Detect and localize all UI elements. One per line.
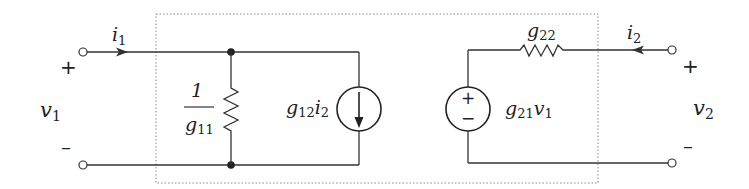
v1-label: v1 — [40, 98, 61, 124]
g21-v1-label: g21v1 — [505, 97, 553, 121]
i2-label: i2 — [627, 21, 641, 46]
dependent-current-source: g12i2 — [286, 52, 381, 165]
port2-plus-sign: + — [682, 54, 699, 78]
v2-label: v2 — [693, 96, 714, 122]
circuit-diagram: i1 + – v1 1 g11 g12i2 + − — [0, 0, 749, 189]
arrow-head-icon — [355, 117, 364, 128]
i1-label: i1 — [112, 23, 126, 48]
input-conductance-resistor: 1 g11 — [184, 52, 238, 165]
dependent-voltage-source: + − g21v1 — [446, 50, 553, 163]
g12-i2-label: g12i2 — [286, 96, 329, 120]
g11-numerator: 1 — [191, 79, 203, 101]
port2-minus-sign: – — [683, 134, 693, 158]
g11-denominator: g11 — [185, 113, 214, 137]
port-2: i2 + – v2 — [627, 21, 714, 167]
port1-plus-sign: + — [60, 55, 77, 79]
terminal-1-plus — [79, 48, 87, 56]
source-plus-sign: + — [461, 88, 475, 108]
resistor-zigzag-icon — [224, 52, 238, 165]
terminal-1-minus — [79, 161, 87, 169]
terminal-2-minus — [668, 159, 676, 167]
g22-label: g22 — [527, 19, 556, 43]
terminal-2-plus — [668, 46, 676, 54]
source-minus-sign: − — [461, 108, 475, 128]
port1-minus-sign: – — [61, 135, 71, 159]
